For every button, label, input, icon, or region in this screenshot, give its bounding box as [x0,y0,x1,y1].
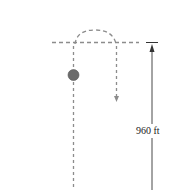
projectile-diagram: 960 ft [0,0,181,190]
diagram-canvas [0,0,181,190]
arrow-up-icon [150,44,155,52]
arrow-down-icon [114,96,119,102]
ball [68,70,79,81]
height-label: 960 ft [135,125,161,137]
